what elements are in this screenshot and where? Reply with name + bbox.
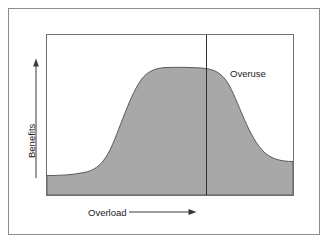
x-axis-label: Overload [88, 207, 127, 218]
overuse-label: Overuse [230, 68, 266, 79]
chart-figure: Overuse Benefits Overload [0, 0, 330, 247]
benefits-overload-area-chart: Overuse Benefits Overload [0, 0, 330, 247]
y-axis-label: Benefits [26, 123, 37, 158]
